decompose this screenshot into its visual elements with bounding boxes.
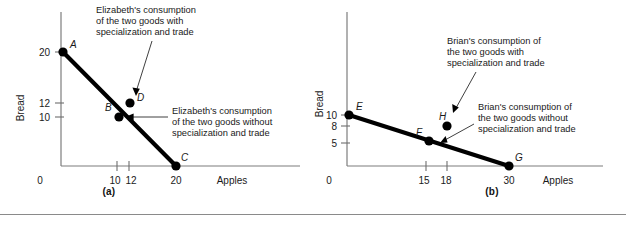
x-tick-label-18: 18 (440, 175, 452, 186)
data-point-c (171, 161, 180, 170)
data-point-label-c: C (181, 152, 189, 163)
two-panel-ppf-figure: 20 12 10 0 10 12 20 Bread Apples A B C D (0, 0, 626, 225)
annotation-without-trade-line-1: Elizabeth's consumption (172, 106, 272, 116)
y-axis-title: Bread (15, 95, 26, 122)
y-axis-title: Bread (314, 91, 325, 118)
data-point-label-f: F (416, 127, 423, 138)
x-tick-label-12: 12 (125, 175, 137, 186)
annotation-without-trade-line-3: specialization and trade (478, 124, 576, 134)
annotation-without-trade-line-2: the two goods without (478, 113, 568, 123)
data-point-label-g: G (515, 152, 523, 163)
y-tick-label-10: 10 (326, 110, 338, 121)
annotation-without-trade-arrow (125, 114, 168, 121)
data-point-label-h: H (439, 111, 447, 122)
y-tick-label-12: 12 (39, 98, 51, 109)
y-tick-label-20: 20 (39, 47, 51, 58)
panel-b-brian: 10 8 5 0 15 18 30 Bread Apples E F G H (313, 0, 626, 205)
y-tick-label-10: 10 (39, 112, 51, 123)
x-axis-title: Apples (543, 175, 574, 186)
x-axis-title: Apples (217, 175, 248, 186)
data-point-label-d: D (137, 92, 144, 103)
x-tick-label-30: 30 (503, 175, 515, 186)
annotation-with-trade-line-3: specialization and trade (447, 58, 545, 68)
annotation-without-trade-line-3: specialization and trade (172, 128, 270, 138)
annotation-without-trade-line-2: of the two goods without (172, 117, 273, 127)
annotation-with-trade-arrow (452, 72, 476, 113)
y-tick-label-8: 8 (331, 121, 337, 132)
data-point-f (424, 136, 433, 145)
data-point-label-b: B (105, 102, 112, 113)
data-point-b (114, 112, 123, 121)
data-point-label-e: E (356, 101, 363, 112)
x-tick-label-15: 15 (418, 175, 430, 186)
x-origin-label: 0 (37, 175, 43, 186)
annotation-with-trade-line-1: Brian's consumption of (447, 36, 541, 46)
x-origin-label: 0 (326, 175, 332, 186)
annotation-without-trade-line-1: Brian's consumption of (478, 102, 572, 112)
data-point-a (58, 47, 67, 56)
x-tick-label-10: 10 (109, 175, 121, 186)
panel-a-caption: (a) (0, 186, 313, 197)
data-point-h (442, 121, 451, 130)
panel-b-chart: 10 8 5 0 15 18 30 Bread Apples E F G H (313, 0, 626, 205)
annotation-with-trade-line-3: specialization and trade (96, 27, 194, 37)
data-point-label-a: A (69, 39, 77, 50)
annotation-with-trade-line-2: of the two goods with (96, 16, 183, 26)
annotation-with-trade-arrow (132, 41, 152, 96)
panel-a-chart: 20 12 10 0 10 12 20 Bread Apples A B C D (0, 0, 313, 205)
data-point-e (344, 110, 353, 119)
panel-a-elizabeth: 20 12 10 0 10 12 20 Bread Apples A B C D (0, 0, 313, 205)
x-tick-label-20: 20 (170, 175, 182, 186)
data-point-g (504, 161, 513, 170)
annotation-with-trade-line-2: the two goods with (447, 47, 524, 57)
annotation-with-trade-line-1: Elizabeth's consumption (96, 5, 196, 15)
y-tick-label-5: 5 (331, 138, 337, 149)
data-point-d (125, 98, 134, 107)
panel-b-caption: (b) (313, 186, 626, 197)
bottom-divider (0, 214, 626, 215)
ppf-frontier-line (63, 52, 176, 166)
